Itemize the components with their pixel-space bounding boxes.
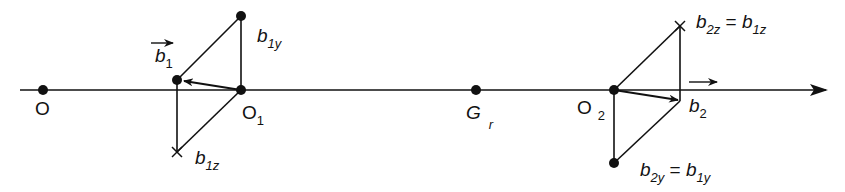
label-b2z-main: b <box>696 11 707 32</box>
point-o <box>38 85 48 95</box>
label-gr-sub: r <box>489 117 493 132</box>
point-b1 <box>172 75 182 85</box>
label-b1z-sub: 1z <box>206 158 220 173</box>
label-o: O <box>35 99 50 118</box>
label-b2y-rhs-main: b <box>686 159 697 180</box>
label-gr-main: G <box>466 102 481 123</box>
point-b2y <box>609 158 619 168</box>
label-o2-sub: 2 <box>598 108 605 123</box>
label-b2-sub: 2 <box>700 106 707 121</box>
point-gr <box>471 85 481 95</box>
point-o2 <box>609 85 619 95</box>
label-gr: Gr <box>466 103 493 122</box>
label-b2z-rhs-main: b <box>742 11 753 32</box>
label-b1y: b1y <box>257 26 281 45</box>
label-b1-main: b <box>155 45 166 66</box>
label-b2z-sub: 2z <box>707 22 721 37</box>
label-o-text: O <box>35 98 50 119</box>
label-o2-main: O <box>577 97 592 118</box>
label-b1z: b1z <box>195 148 219 167</box>
label-b2z-eq: = <box>720 11 742 32</box>
label-b2y-eq: = <box>664 159 686 180</box>
label-b2y-main: b <box>640 159 651 180</box>
label-b2: b2 <box>689 96 707 115</box>
label-b1: b1 <box>155 46 173 65</box>
label-o1-main: O <box>242 102 257 123</box>
label-b2z-equation: b2z = b1z <box>696 12 766 31</box>
label-o1-sub: 1 <box>257 113 264 128</box>
vector-b1 <box>184 81 241 90</box>
label-o1: O1 <box>242 103 264 122</box>
label-b1y-main: b <box>257 25 268 46</box>
label-o2: O2 <box>577 98 605 117</box>
label-b2z-rhs-sub: 1z <box>753 22 767 37</box>
point-b1y <box>236 11 246 21</box>
point-o1 <box>236 85 246 95</box>
vector-b2 <box>614 90 678 100</box>
label-b1-sub: 1 <box>166 56 173 71</box>
label-b1y-sub: 1y <box>268 36 282 51</box>
label-b2y-sub: 2y <box>651 170 665 185</box>
label-b2y-rhs-sub: 1y <box>697 170 711 185</box>
label-b2y-equation: b2y = b1y <box>640 160 710 179</box>
label-b2-main: b <box>689 95 700 116</box>
frame-1-construction <box>177 16 241 152</box>
label-b1z-main: b <box>195 147 206 168</box>
